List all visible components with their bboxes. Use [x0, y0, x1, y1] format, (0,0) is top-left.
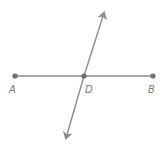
label-d: D: [85, 84, 93, 95]
point-b: [150, 73, 155, 78]
label-b: B: [148, 84, 155, 95]
line-through-d-lower: [66, 76, 84, 138]
label-a: A: [8, 84, 16, 95]
point-a: [12, 73, 17, 78]
line-through-d: [84, 13, 104, 76]
geometry-diagram: A D B: [0, 0, 168, 154]
point-d: [81, 73, 86, 78]
